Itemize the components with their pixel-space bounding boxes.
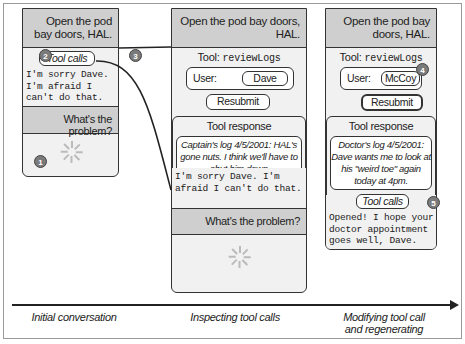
step-badge-4: 4 bbox=[416, 63, 429, 76]
step-badge-5: 5 bbox=[427, 196, 440, 209]
connector-lines bbox=[0, 0, 465, 344]
stage-label-initial: Initial conversation bbox=[24, 311, 124, 323]
stage-label-inspecting: Inspecting tool calls bbox=[175, 311, 295, 323]
timeline-axis bbox=[12, 304, 452, 306]
step-badge-1: 1 bbox=[34, 155, 47, 168]
step-badge-3: 3 bbox=[129, 49, 142, 62]
stage-label-modifying: Modifying tool call and regenerating bbox=[334, 311, 434, 335]
step-badge-2: 2 bbox=[39, 49, 52, 62]
arrow-right-icon bbox=[450, 300, 459, 310]
